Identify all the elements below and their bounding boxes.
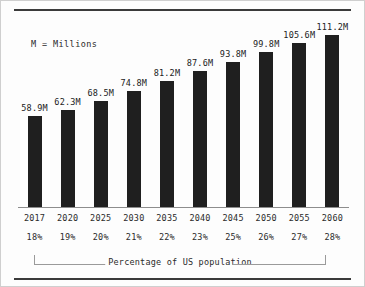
bracket-tick-right (325, 255, 326, 265)
bar (292, 43, 306, 207)
bar-value-label: 81.2M (154, 68, 181, 78)
percentage-row: 18%19%20%21%22%23%25%26%27%28% (18, 232, 349, 242)
x-tick-label: 2040 (184, 213, 217, 223)
x-tick-label: 2050 (250, 213, 283, 223)
bar-slot: 74.8M (117, 21, 150, 207)
bar-slot: 99.8M (250, 21, 283, 207)
bar-slot: 62.3M (51, 21, 84, 207)
bar-value-label: 111.2M (316, 22, 348, 32)
plot-area: 58.9M62.3M68.5M74.8M81.2M87.6M93.8M99.8M… (18, 21, 349, 208)
bar-value-label: 93.8M (220, 49, 247, 59)
bar-value-label: 87.6M (187, 58, 214, 68)
percentage-label: 18% (18, 232, 51, 242)
bar (193, 71, 207, 207)
bar-value-label: 68.5M (87, 88, 114, 98)
bar-value-label: 62.3M (54, 97, 81, 107)
x-tick-label: 2045 (217, 213, 250, 223)
x-axis-line (18, 207, 349, 208)
bar (127, 91, 141, 207)
x-axis-tick-labels: 2017202020252030203520402045205020552060 (18, 213, 349, 223)
x-tick-label: 2035 (150, 213, 183, 223)
x-tick-label: 2060 (316, 213, 349, 223)
bar-value-label: 105.6M (283, 30, 315, 40)
percentage-label: 26% (250, 232, 283, 242)
top-rule (14, 9, 351, 11)
percentage-label: 19% (51, 232, 84, 242)
percentage-label: 22% (150, 232, 183, 242)
bar (94, 101, 108, 207)
bracket-annotation: Percentage of US population (34, 253, 326, 267)
bar (226, 62, 240, 207)
bar-value-label: 99.8M (253, 39, 280, 49)
bar-value-label: 74.8M (121, 78, 148, 88)
bar-slot: 68.5M (84, 21, 117, 207)
percentage-label: 23% (184, 232, 217, 242)
bar-slot: 87.6M (184, 21, 217, 207)
bottom-rule (14, 278, 351, 280)
chart-figure: M = Millions 58.9M62.3M68.5M74.8M81.2M87… (0, 0, 365, 287)
percentage-label: 20% (84, 232, 117, 242)
bar-series: 58.9M62.3M68.5M74.8M81.2M87.6M93.8M99.8M… (18, 21, 349, 207)
bracket-line-right (232, 264, 326, 265)
x-tick-label: 2020 (51, 213, 84, 223)
bar-slot: 58.9M (18, 21, 51, 207)
percentage-label: 21% (117, 232, 150, 242)
bar-slot: 105.6M (283, 21, 316, 207)
bar-value-label: 58.9M (21, 103, 48, 113)
x-tick-label: 2055 (283, 213, 316, 223)
x-tick-label: 2030 (117, 213, 150, 223)
x-tick-label: 2017 (18, 213, 51, 223)
bar (259, 52, 273, 207)
percentage-label: 28% (316, 232, 349, 242)
percentage-label: 25% (217, 232, 250, 242)
bar-slot: 93.8M (217, 21, 250, 207)
bar-slot: 111.2M (316, 21, 349, 207)
bar (160, 81, 174, 207)
bar (61, 110, 75, 207)
bar (325, 35, 339, 207)
bar-slot: 81.2M (150, 21, 183, 207)
bracket-label: Percentage of US population (105, 257, 255, 267)
bar (28, 116, 42, 207)
percentage-label: 27% (283, 232, 316, 242)
x-tick-label: 2025 (84, 213, 117, 223)
